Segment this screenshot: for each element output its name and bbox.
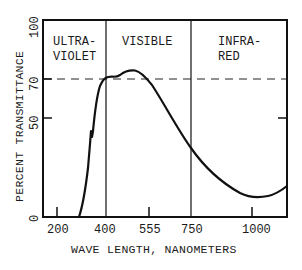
region-label-ultraviolet-2: VIOLET — [53, 50, 96, 64]
region-label-ultraviolet-1: ULTRA- — [53, 35, 96, 49]
transmittance-curve — [79, 70, 287, 217]
x-tick-label-1000: 1000 — [242, 223, 271, 237]
x-tick-label-400: 400 — [94, 223, 116, 237]
region-label-infrared-1: INFRA- — [218, 35, 261, 49]
region-label-visible: VISIBLE — [122, 35, 172, 49]
x-tick-label-750: 750 — [181, 223, 203, 237]
y-tick-label-70: 70 — [28, 77, 42, 91]
y-tick-label-100: 100 — [28, 16, 42, 38]
x-axis-label: WAVE LENGTH, NANOMETERS — [71, 243, 237, 256]
x-tick-label-200: 200 — [47, 223, 69, 237]
x-tick-label-555: 555 — [139, 223, 161, 237]
region-label-infrared-2: RED — [218, 50, 240, 64]
chart: ULTRA- VIOLET VISIBLE INFRA- RED 0 50 70… — [0, 0, 302, 270]
y-tick-label-50: 50 — [28, 116, 42, 130]
y-axis-label: PERCENT TRANSMITTANCE — [13, 51, 26, 202]
y-tick-label-0: 0 — [28, 215, 42, 222]
